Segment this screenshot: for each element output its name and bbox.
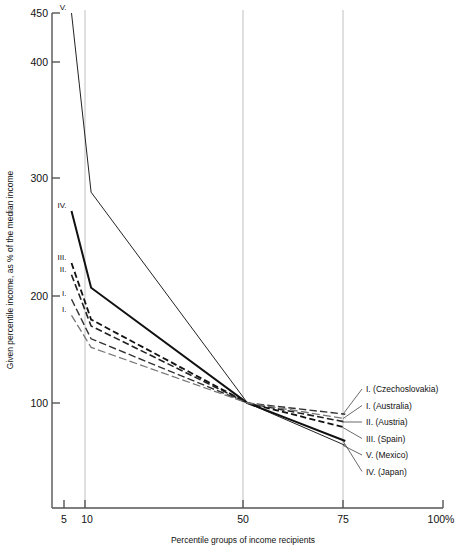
y-tick-label-400: 400	[30, 56, 48, 68]
chart-container: 450 400 300 200 100 Given percentile inc…	[0, 0, 464, 546]
series-line	[72, 13, 346, 445]
legend: I. (Czechoslovakia)I. (Australia)II. (Au…	[343, 384, 438, 477]
y-axis-title: Given percentile income, as % of the med…	[5, 171, 15, 370]
x-axis-title: Percentile groups of income recipients	[171, 535, 315, 545]
legend-leader-line	[343, 441, 362, 472]
y-tick-label-200: 200	[30, 290, 48, 302]
series-line	[72, 263, 346, 428]
x-tick-label-100: 100%	[428, 513, 455, 525]
legend-leader-line	[343, 428, 362, 439]
data-series-layer	[72, 13, 346, 445]
curve-tag: III.	[58, 253, 67, 262]
legend-label: I. (Czechoslovakia)	[366, 384, 438, 394]
y-tick-label-300: 300	[30, 172, 48, 184]
x-axis: 5 10 50 75 100% Percentile groups of inc…	[52, 500, 454, 545]
x-tick-label-75: 75	[337, 513, 349, 525]
legend-leader-line	[343, 406, 362, 419]
legend-label: I. (Australia)	[366, 401, 412, 411]
x-tick-label-50: 50	[237, 513, 249, 525]
series-line	[72, 211, 346, 441]
curve-tag-layer: V.IV.III.II.I.I.	[57, 3, 66, 314]
y-tick-label-450: 450	[30, 7, 48, 19]
x-tick-label-5: 5	[61, 513, 67, 525]
series-line	[72, 315, 346, 418]
curve-tag: V.	[60, 3, 67, 12]
legend-label: IV. (Japan)	[366, 467, 407, 477]
series-line	[72, 299, 346, 414]
curve-tag: II.	[60, 265, 67, 274]
legend-label: III. (Spain)	[366, 434, 405, 444]
curve-tag: IV.	[57, 201, 66, 210]
legend-leader-line	[343, 389, 362, 414]
series-line	[72, 275, 346, 422]
y-tick-label-100: 100	[30, 397, 48, 409]
legend-label: V. (Mexico)	[366, 450, 408, 460]
gridlines	[85, 10, 343, 508]
x-tick-label-10: 10	[81, 513, 93, 525]
legend-leader-line	[343, 445, 362, 455]
y-axis: 450 400 300 200 100 Given percentile inc…	[5, 7, 60, 508]
curve-tag: I.	[62, 289, 66, 298]
curve-tag: I.	[62, 305, 66, 314]
legend-label: II. (Austria)	[366, 417, 408, 427]
line-chart: 450 400 300 200 100 Given percentile inc…	[0, 0, 464, 546]
